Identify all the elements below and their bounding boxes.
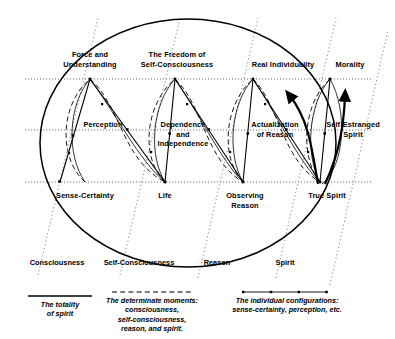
band-label-reason: Reason <box>204 258 231 267</box>
node-marker <box>150 151 152 153</box>
node-label-self-estranged-spirit: Self-Estranged Spirit <box>312 120 394 139</box>
legend-node-marker <box>242 291 244 293</box>
node-marker <box>329 78 332 81</box>
band-label-self-consciousness: Self-Consciousness <box>104 258 175 267</box>
node-label-actualization-of-reason: Actualization of Reason <box>235 120 315 139</box>
node-marker <box>319 181 322 184</box>
band-label-consciousness: Consciousness <box>30 258 85 267</box>
node-marker <box>307 151 309 153</box>
diagram-canvas: Force and Understanding The Freedom of S… <box>0 0 395 339</box>
legend-node-marker <box>298 291 300 293</box>
legend-node-marker <box>270 291 272 293</box>
legend-caption-determinate-moments: The determinate moments: consciousness, … <box>85 296 220 334</box>
arrow-to-morality <box>325 96 345 184</box>
node-label-sense-certainty: Sense-Certainty <box>45 191 125 201</box>
node-label-observing-reason: Observing Reason <box>213 191 277 210</box>
node-marker <box>68 152 70 154</box>
emphasis-arrows <box>290 96 345 184</box>
band-label-spirit: Spirit <box>276 258 295 267</box>
node-label-perception: Perception <box>66 120 140 130</box>
legend-node-marker <box>325 291 327 293</box>
node-marker <box>58 180 61 183</box>
node-marker <box>186 103 188 105</box>
moment-arc-consciousness-left <box>66 79 90 182</box>
node-marker <box>242 181 245 184</box>
node-label-life: Life <box>145 191 185 201</box>
node-marker <box>72 134 75 137</box>
arrow-to-real-individuality <box>290 96 318 184</box>
node-label-dependence-and-independence: Dependence and Independence <box>141 120 225 149</box>
node-marker <box>89 78 92 81</box>
node-label-morality: Morality <box>320 60 380 70</box>
node-marker <box>174 78 177 81</box>
node-label-true-spirit: True Spirit <box>296 191 358 201</box>
node-marker <box>101 103 103 105</box>
legend-caption-individual-configurations: The individual configurations: sense-cer… <box>207 296 367 315</box>
node-marker <box>229 151 231 153</box>
node-marker <box>164 181 167 184</box>
node-marker <box>264 103 266 105</box>
band-separator-4 <box>276 18 336 278</box>
node-label-freedom-of-self-consciousness: The Freedom of Self-Consciousness <box>122 50 232 69</box>
node-label-real-individuality: Real Individuality <box>236 60 330 70</box>
node-marker <box>252 78 255 81</box>
